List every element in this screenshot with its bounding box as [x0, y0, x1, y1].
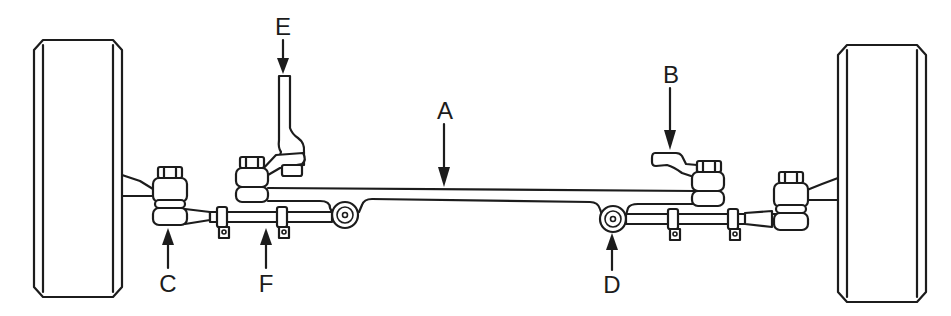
callout-label-f: F [259, 272, 274, 296]
callout-label-a: A [437, 99, 453, 123]
diagram-drawing [0, 0, 951, 316]
left-outer-tie-rod-end [153, 167, 187, 225]
callout-label-e: E [275, 15, 291, 39]
callout-label-d: D [603, 273, 620, 297]
callout-label-b: B [663, 63, 679, 87]
callout-arrows [162, 40, 676, 270]
right-wheel [807, 45, 926, 302]
left-wheel [34, 40, 153, 297]
left-tie-rod [185, 207, 332, 238]
center-link [268, 188, 695, 232]
callout-label-c: C [159, 272, 176, 296]
right-outer-tie-rod-end [774, 172, 808, 230]
pitman-arm [236, 76, 305, 202]
right-tie-rod [626, 209, 776, 240]
idler-arm [652, 153, 724, 206]
steering-linkage-diagram: A B C D E F [0, 0, 951, 316]
